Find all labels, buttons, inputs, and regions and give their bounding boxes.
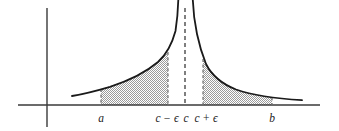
right-shaded-area — [203, 59, 272, 105]
left-shaded-area — [101, 52, 168, 105]
tick-label-c: c — [183, 112, 188, 124]
tick-label-b: b — [269, 112, 275, 124]
tick-label-c-minus-epsilon: c − ϵ — [155, 112, 179, 124]
tick-label-c-plus-epsilon: c + ϵ — [194, 112, 218, 124]
tick-label-a: a — [98, 112, 104, 124]
figure-canvas: a c − ϵ c c + ϵ b — [0, 0, 339, 131]
integral-diagram: a c − ϵ c c + ϵ b — [0, 0, 339, 131]
